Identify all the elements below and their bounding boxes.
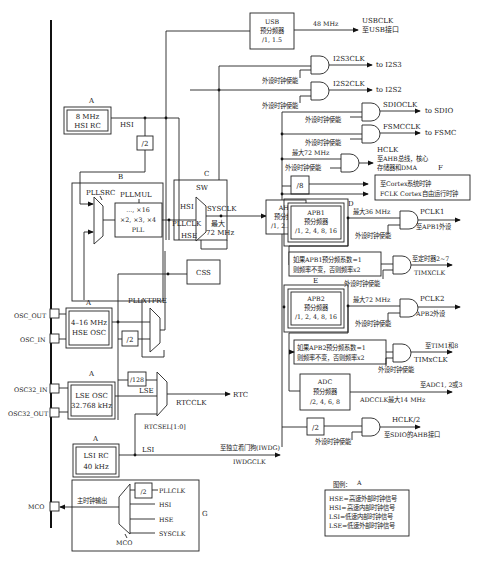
sdio-and-gate xyxy=(362,103,380,121)
rtc-label: RTC xyxy=(233,391,248,399)
sw-hse-label: HSE xyxy=(181,232,197,240)
usb-interface-label: 至USB接口 xyxy=(362,25,399,34)
mco-input-sysclk: SYSCLK xyxy=(159,530,186,537)
legend-item: HSI=高速内部时钟信号 xyxy=(329,503,395,512)
svg-text:如果APB1预分频系数=1: 如果APB1预分频系数=1 xyxy=(293,255,362,264)
enable-label: 外设时钟使能 xyxy=(285,163,322,172)
pclk2-desc: APB2外设 xyxy=(415,309,446,318)
timx2-and-gate xyxy=(393,344,411,362)
apb2-prescaler-block: APB2 预分频器 /1, 2, 4, 8, 16 xyxy=(288,289,344,328)
svg-text:4–16 MHz: 4–16 MHz xyxy=(71,319,107,327)
rtcclk-label: RTCCLK xyxy=(176,399,207,407)
timxclk2-label: TIMxCLK xyxy=(414,356,449,364)
hclk2-desc: 至SDIO的AHB接口 xyxy=(384,430,440,439)
svg-text:/2: /2 xyxy=(312,424,319,432)
lse-osc-block: LSE OSC 32.768 kHz xyxy=(68,382,115,419)
osc32-out-pin-label: OSC32_OUT xyxy=(8,410,49,418)
pllsrc-mux xyxy=(94,197,103,244)
adcclk-label: ADCCLK最大14 MHz xyxy=(359,395,426,404)
section-label-a: A xyxy=(85,299,92,307)
hclk-desc-2: 存储器和DMA xyxy=(377,163,417,172)
osc-out-pin-label: OSC_OUT xyxy=(14,312,47,320)
section-label-d: D xyxy=(348,200,354,208)
sdioclk-label: SDIOCLK xyxy=(383,101,418,109)
sw-mux xyxy=(196,197,206,241)
pllxtpre-mux xyxy=(150,308,160,352)
mco-input-hse: HSE xyxy=(159,516,174,523)
svg-text:/1, 2, 4, 8, 16: /1, 2, 4, 8, 16 xyxy=(295,227,337,234)
enable-label: 外设时钟使能 xyxy=(315,437,352,446)
to-fsmc-label: to FSMC xyxy=(425,129,456,137)
legend-item: LSE=低速外部时钟信号 xyxy=(329,521,395,530)
timxclk1-label: TIMXCLK xyxy=(414,269,446,276)
svg-text:8 MHz: 8 MHz xyxy=(76,113,100,121)
sys-max-label-2: 72 MHz xyxy=(206,229,234,237)
pllmul-label: PLLMUL xyxy=(120,191,152,199)
section-label-a: A xyxy=(88,370,95,378)
mco-pin-label: MCO xyxy=(28,503,44,510)
svg-text:如果APB2预分频系数=1: 如果APB2预分频系数=1 xyxy=(297,343,366,352)
svg-text:APB2: APB2 xyxy=(306,295,324,302)
timx1-and-gate xyxy=(393,256,411,274)
svg-text:×2, ×3, ×4: ×2, ×3, ×4 xyxy=(120,216,156,223)
enable-label: 外设时钟使能 xyxy=(378,365,415,374)
pllxtpre-label: PLLXTPRE xyxy=(128,297,167,305)
adc-prescaler-block: ADC 预分频器 /2, 4, 6, 8 xyxy=(300,374,350,410)
svg-text:预分频器: 预分频器 xyxy=(313,387,338,396)
fsmcclk-label: FSMCCLK xyxy=(383,123,421,131)
hsi-signal-label: HSI xyxy=(120,121,134,129)
sw-hsi-label: HSI xyxy=(180,203,194,211)
mco-mux-label: MCO xyxy=(116,539,132,546)
to-i2s2-label: to I2S2 xyxy=(376,86,402,94)
legend-box: HSE=高速外部时钟信号 HSI=高速内部时钟信号 LSI=低速内部时钟信号 L… xyxy=(325,490,409,536)
svg-text:APB1: APB1 xyxy=(306,209,324,216)
svg-text:/1, 1.5: /1, 1.5 xyxy=(262,36,282,43)
svg-text:/2: /2 xyxy=(142,140,149,148)
to-sdio-label: to SDIO xyxy=(425,107,453,115)
svg-text:预分频器: 预分频器 xyxy=(304,303,329,312)
i2s2-and-gate xyxy=(311,82,329,100)
svg-text:LSI RC: LSI RC xyxy=(83,452,108,460)
section-label-f: F xyxy=(438,164,443,172)
pllsrc-label: PLLSRC xyxy=(86,189,115,197)
osc-in-pin-label: OSC_IN xyxy=(20,336,46,344)
svg-text:则频率不变，否则频率x2: 则频率不变，否则频率x2 xyxy=(297,353,365,362)
apb1-prescaler-block: APB1 预分频器 /1, 2, 4, 8, 16 xyxy=(288,203,344,242)
mco-pin xyxy=(50,502,59,511)
enable-label: 外设时钟使能 xyxy=(344,279,381,288)
svg-text:LSE OSC: LSE OSC xyxy=(75,392,108,400)
enable-label: 外设时钟使能 xyxy=(305,138,342,147)
enable-label: 外设时钟使能 xyxy=(355,231,392,240)
lse-signal-label: LSE xyxy=(139,387,154,395)
svg-text:/8: /8 xyxy=(297,182,304,190)
iwdg-label: 至独立看门狗(IWDG) xyxy=(220,443,280,452)
legend-title-tag: A xyxy=(356,479,362,486)
svg-text:/2: /2 xyxy=(127,336,134,344)
i2s3clk-label: I2S3CLK xyxy=(333,55,365,63)
hclk-and-gate xyxy=(341,154,359,172)
svg-text:32.768 kHz: 32.768 kHz xyxy=(71,402,112,410)
svg-text:至Cortex系统时钟: 至Cortex系统时钟 xyxy=(380,179,431,188)
pclk1-label: PCLK1 xyxy=(420,208,444,216)
legend-item: LSI=低速内部时钟信号 xyxy=(329,512,393,521)
adc-desc: 至ADC1, 2或3 xyxy=(420,380,462,388)
svg-text:40 kHz: 40 kHz xyxy=(83,463,108,471)
svg-text:USB: USB xyxy=(265,18,280,25)
svg-text:FCLK Cortex自由运行时钟: FCLK Cortex自由运行时钟 xyxy=(380,189,458,198)
svg-text:预分频器: 预分频器 xyxy=(304,217,329,226)
svg-text:ADC: ADC xyxy=(317,378,333,385)
svg-text:CSS: CSS xyxy=(196,269,211,277)
svg-text:/2, 4, 6, 8: /2, 4, 6, 8 xyxy=(310,398,340,405)
enable-label: 外设时钟使能 xyxy=(355,319,392,328)
section-label-g: G xyxy=(202,510,208,518)
section-label-c: C xyxy=(204,170,209,178)
timx1-desc: 至定时器2~7 xyxy=(412,254,449,263)
osc32-in-pin-label: OSC32_IN xyxy=(14,386,48,394)
svg-text:..., ×16: ..., ×16 xyxy=(126,206,149,213)
hclk-desc-1: 至AHB总线，核心 xyxy=(377,154,429,163)
hse-osc-block: 4–16 MHz HSE OSC xyxy=(66,308,112,348)
pllclk-label: PLLCLK xyxy=(172,220,202,228)
i2s3-and-gate xyxy=(311,56,329,74)
hclk2-label: HCLK/2 xyxy=(392,416,420,424)
pclk1-desc: 至APB1外设 xyxy=(416,222,452,231)
